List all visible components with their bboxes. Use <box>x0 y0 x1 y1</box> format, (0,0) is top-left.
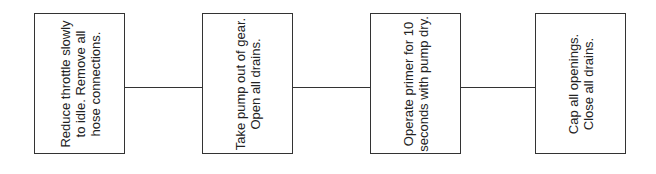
step-text-3: Operate primer for 10 seconds with pump … <box>401 16 431 152</box>
step-box-2: Take pump out of gear. Open all drains. <box>202 13 293 154</box>
step-box-3: Operate primer for 10 seconds with pump … <box>370 13 461 154</box>
step-text-2: Take pump out of gear. Open all drains. <box>233 16 263 152</box>
step-text-1: Reduce throttle slowly to idle. Remove a… <box>57 16 102 152</box>
step-text-4: Cap all openings. Close all drains. <box>566 16 596 152</box>
step-box-1: Reduce throttle slowly to idle. Remove a… <box>34 13 125 154</box>
connector-1-2 <box>125 87 202 88</box>
connector-2-3 <box>293 87 370 88</box>
step-box-4: Cap all openings. Close all drains. <box>535 13 626 154</box>
connector-3-4 <box>461 87 535 88</box>
